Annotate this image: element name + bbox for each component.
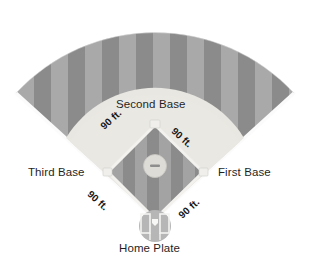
pitching-rubber (150, 165, 160, 168)
second-base-bag (150, 120, 160, 128)
baseball-field-graphic (0, 0, 310, 265)
baseball-diamond-diagram: Second Base Third Base First Base Home P… (0, 0, 310, 265)
label-third-base: Third Base (28, 167, 85, 179)
label-home-plate: Home Plate (119, 243, 180, 255)
third-base-bag (103, 168, 112, 176)
first-base-bag (199, 168, 208, 176)
home-plate-dirt-circle (139, 210, 171, 242)
label-first-base: First Base (218, 167, 271, 179)
label-second-base: Second Base (116, 99, 186, 111)
pitchers-mound (144, 155, 167, 178)
